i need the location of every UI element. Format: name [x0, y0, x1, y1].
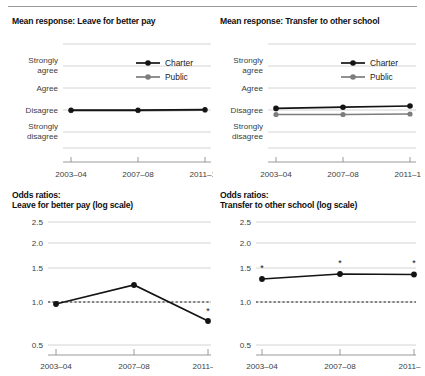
data-point-charter — [340, 104, 346, 110]
data-point-odds-ratio — [259, 276, 265, 282]
ytick-label-1-0: 1.0 — [240, 298, 252, 307]
xtick-label-2003-04: 2003–04 — [246, 362, 278, 371]
ytick-label-strongly-disagree-line1: Strongly — [233, 122, 264, 131]
data-point-charter — [407, 103, 413, 109]
significance-marker-2011-12: * — [412, 258, 416, 268]
legend-label-charter: Charter — [165, 58, 193, 68]
xtick-label-2011-12: 2011–12 — [190, 170, 213, 179]
data-point-charter — [202, 107, 207, 112]
data-point-public — [340, 112, 345, 117]
ytick-label-disagree: Disagree — [26, 106, 59, 115]
panel-odds-ratios-transfer-to-other-school: Odds ratios: Transfer to other school (l… — [216, 190, 421, 376]
mean-response-transfer-chart: Strongly agree Agree Disagree Strongly d… — [216, 30, 421, 186]
ytick-label-agree: Agree — [241, 84, 263, 93]
data-point-odds-ratio — [131, 282, 137, 288]
xtick-label-2003-04: 2003–04 — [40, 362, 72, 371]
xtick-label-2011-12: 2011–12 — [193, 362, 213, 371]
ytick-label-0-5: 0.5 — [240, 341, 252, 350]
series-line-odds-ratio — [56, 285, 208, 321]
odds-ratios-leave-chart: 2.5 2.0 1.5 1.0 0.5 2003–04 2007–08 2011… — [8, 214, 213, 374]
xtick-label-2011-12: 2011–12 — [399, 362, 421, 371]
data-point-public — [273, 112, 278, 117]
panel-mean-response-leave-for-better-pay: Mean response: Leave for better pay Stro… — [8, 16, 213, 186]
ytick-label-1-0: 1.0 — [32, 298, 44, 307]
data-point-odds-ratio — [411, 272, 417, 278]
plot-area: 2.5 2.0 1.5 1.0 0.5 2003–04 2007–08 2011… — [216, 214, 421, 374]
data-point-charter — [135, 108, 140, 113]
odds-ratios-transfer-chart: 2.5 2.0 1.5 1.0 0.5 2003–04 2007–08 2011… — [216, 214, 421, 374]
legend-label-charter: Charter — [370, 58, 398, 68]
xtick-label-2003-04: 2003–04 — [55, 170, 87, 179]
ytick-label-strongly-agree-line2: agree — [242, 66, 263, 75]
mean-response-leave-chart: Strongly agree Agree Disagree Strongly d… — [8, 30, 213, 186]
ytick-label-agree: Agree — [36, 84, 58, 93]
ytick-label-strongly-disagree-line2: disagree — [232, 132, 264, 141]
plot-area: 2.5 2.0 1.5 1.0 0.5 2003–04 2007–08 2011… — [8, 214, 213, 374]
legend-label-public: Public — [165, 72, 188, 82]
legend-marker-public — [145, 74, 151, 80]
plot-area: Strongly agree Agree Disagree Strongly d… — [8, 30, 213, 186]
panel-title-line1: Odds ratios: — [220, 190, 269, 201]
ytick-label-2-0: 2.0 — [32, 239, 44, 248]
xtick-label-2007-08: 2007–08 — [324, 362, 356, 371]
figure-panel-grid: Mean response: Leave for better pay Stro… — [0, 0, 425, 376]
panel-title-line1: Odds ratios: — [12, 190, 61, 201]
ytick-label-1-5: 1.5 — [32, 264, 44, 273]
data-point-odds-ratio — [53, 301, 59, 307]
data-point-odds-ratio — [337, 271, 343, 277]
xtick-label-2007-08: 2007–08 — [327, 170, 359, 179]
legend-marker-charter — [145, 60, 151, 66]
legend-label-public: Public — [370, 72, 393, 82]
data-point-odds-ratio — [205, 318, 211, 324]
panel-title-line2: Leave for better pay (log scale) — [12, 200, 133, 211]
xtick-label-2003-04: 2003–04 — [260, 170, 292, 179]
ytick-label-strongly-agree-line1: Strongly — [233, 56, 264, 65]
ytick-label-strongly-disagree-line2: disagree — [27, 132, 59, 141]
panel-mean-response-transfer-to-other-school: Mean response: Transfer to other school … — [216, 16, 421, 186]
significance-marker-2011-12: * — [206, 306, 210, 316]
ytick-label-2-5: 2.5 — [240, 218, 252, 227]
significance-marker-2007-08: * — [338, 258, 342, 268]
legend: Charter Public — [136, 58, 193, 82]
ytick-label-strongly-agree-line2: agree — [37, 66, 58, 75]
panel-title: Mean response: Transfer to other school — [220, 16, 379, 27]
panel-title: Mean response: Leave for better pay — [12, 16, 155, 27]
plot-area: Strongly agree Agree Disagree Strongly d… — [216, 30, 421, 186]
ytick-label-2-0: 2.0 — [240, 239, 252, 248]
ytick-label-0-5: 0.5 — [32, 341, 44, 350]
data-point-public — [407, 111, 412, 116]
significance-marker-2003-04: * — [260, 263, 264, 273]
panel-odds-ratios-leave-for-better-pay: Odds ratios: Leave for better pay (log s… — [8, 190, 213, 376]
ytick-label-disagree: Disagree — [231, 106, 264, 115]
xtick-label-2007-08: 2007–08 — [122, 170, 154, 179]
ytick-label-strongly-disagree-line1: Strongly — [28, 122, 59, 131]
panel-title-line2: Transfer to other school (log scale) — [220, 200, 357, 211]
legend-marker-charter — [350, 60, 356, 66]
header-divider — [8, 6, 417, 7]
data-point-charter — [273, 106, 279, 112]
legend: Charter Public — [341, 58, 398, 82]
xtick-label-2007-08: 2007–08 — [118, 362, 150, 371]
ytick-label-1-5: 1.5 — [240, 264, 252, 273]
legend-marker-public — [350, 74, 356, 80]
ytick-label-strongly-agree-line1: Strongly — [28, 56, 59, 65]
xtick-label-2011-12: 2011–12 — [395, 170, 421, 179]
ytick-label-2-5: 2.5 — [32, 218, 44, 227]
data-point-charter — [68, 108, 73, 113]
